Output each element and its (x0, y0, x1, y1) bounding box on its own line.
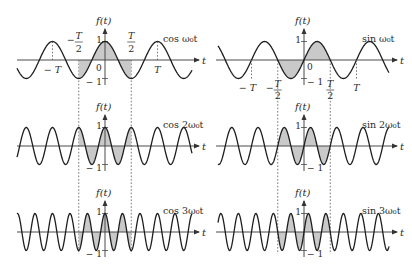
panel-cos2: tf(t)1− 1cos 2ω₀t (17, 101, 207, 173)
tick-label-minus-one: − 1 (307, 77, 323, 87)
tick-label-minus-one: − 1 (86, 249, 102, 259)
t-axis-label: t (202, 227, 207, 238)
tick-label-plus-one: 1 (96, 207, 102, 217)
function-label: cos 2ω₀t (163, 119, 204, 130)
t-axis-label: t (400, 141, 405, 152)
panel-sin1: tf(t)1− 1sin ω₀t (216, 15, 405, 87)
f-axis-label: f(t) (95, 187, 112, 198)
f-axis-label: f(t) (294, 187, 311, 198)
panel-sin3: tf(t)1− 1sin 3ω₀t (216, 187, 405, 259)
fourier-harmonics-figure: tf(t)1− 1cos ω₀ttf(t)1− 1sin ω₀ttf(t)1− … (0, 0, 412, 278)
label-half-T-num: T (327, 78, 334, 89)
label-half-T-num: T (128, 30, 135, 41)
tick-label-minus-one: − 1 (307, 163, 323, 173)
function-label: sin 3ω₀t (362, 205, 401, 216)
label-neg-half-T-den: 2 (76, 43, 82, 54)
label-T: T (154, 64, 161, 75)
panel-cos1: tf(t)1− 1cos ω₀t (17, 15, 207, 87)
panel-cos3: tf(t)1− 1cos 3ω₀t (17, 187, 207, 259)
label-neg-T: − T (44, 64, 62, 75)
function-label: cos ω₀t (163, 33, 197, 44)
label-half-T-den: 2 (128, 43, 134, 54)
tick-label-minus-one: − 1 (86, 77, 102, 87)
function-label: cos 3ω₀t (163, 205, 204, 216)
label-neg-half-T-sign: − (67, 34, 75, 45)
f-axis-label: f(t) (95, 15, 112, 26)
tick-label-minus-one: − 1 (86, 163, 102, 173)
f-axis-label: f(t) (294, 101, 311, 112)
label-neg-half-T-num: T (76, 30, 83, 41)
origin-label: 0 (307, 62, 313, 72)
t-axis-label: t (400, 55, 405, 66)
tick-label-plus-one: 1 (295, 121, 301, 131)
f-axis-label: f(t) (95, 101, 112, 112)
tick-label-plus-one: 1 (295, 207, 301, 217)
function-label: sin ω₀t (362, 33, 395, 44)
tick-label-plus-one: 1 (96, 121, 102, 131)
t-axis-label: t (202, 141, 207, 152)
label-half-T-den: 2 (327, 90, 333, 101)
function-label: sin 2ω₀t (362, 119, 401, 130)
t-axis-label: t (202, 55, 207, 66)
label-T: T (353, 82, 360, 93)
panel-sin2: tf(t)1− 1sin 2ω₀t (216, 101, 405, 173)
label-neg-half-T-sign: − (266, 82, 274, 93)
tick-label-plus-one: 1 (295, 35, 301, 45)
tick-label-minus-one: − 1 (307, 249, 323, 259)
origin-label: 0 (96, 63, 102, 73)
label-neg-half-T-den: 2 (275, 90, 281, 101)
f-axis-label: f(t) (294, 15, 311, 26)
label-neg-half-T-num: T (275, 78, 282, 89)
label-neg-T: − T (239, 82, 257, 93)
t-axis-label: t (400, 227, 405, 238)
harmonics-diagram: tf(t)1− 1cos ω₀ttf(t)1− 1sin ω₀ttf(t)1− … (0, 0, 412, 278)
